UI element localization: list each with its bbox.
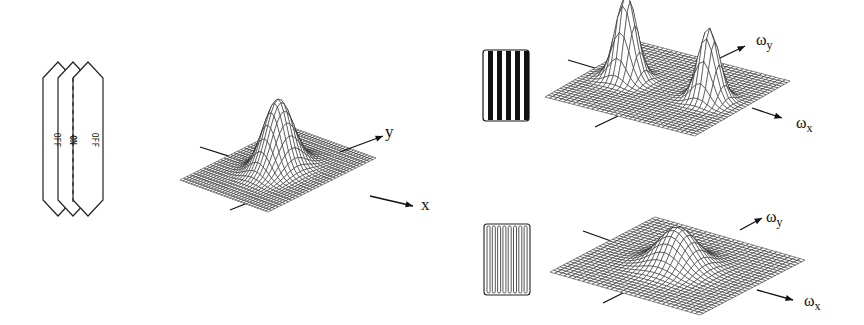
x-axis-arrow-head	[785, 295, 793, 301]
frequency-surface-plot-top	[545, 0, 790, 136]
off-label-right: OFF	[90, 133, 99, 148]
x-axis-arrow-head	[405, 201, 413, 207]
grating-bar-dark	[506, 51, 511, 120]
grating-bar-dark	[497, 51, 502, 120]
figure: OFF ON OFF y x ωy ωx ωy ωx	[0, 0, 864, 325]
y-axis-label: y	[385, 122, 394, 141]
x-axis-label: x	[421, 195, 430, 214]
spatial-surface-plot	[180, 99, 413, 212]
omega-y-label-bottom: ωy	[766, 208, 783, 229]
x-axis-arrow-head	[774, 113, 782, 119]
y-axis-arrow-head	[375, 136, 383, 142]
axis-line-front	[603, 292, 625, 303]
grating-bar-dark	[524, 51, 529, 120]
frequency-surface-plot-bottom	[550, 217, 805, 315]
axis-line-front	[595, 116, 618, 127]
omega-x-label-top: ωx	[796, 114, 813, 135]
grating-high-contrast	[483, 50, 529, 121]
grating-bar-dark	[488, 51, 493, 120]
grating-low-contrast	[484, 224, 530, 295]
omega-y-label-top: ωy	[756, 31, 773, 52]
omega-x-label-bottom: ωx	[804, 292, 821, 313]
on-label: ON	[68, 135, 77, 145]
grating-bar-dark	[515, 51, 520, 120]
off-label-left: OFF	[52, 133, 61, 148]
grating-frame	[484, 224, 530, 295]
